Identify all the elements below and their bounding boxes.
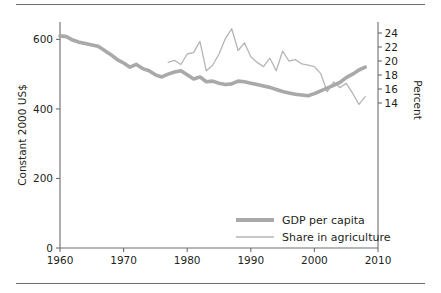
y2-tick-label: 22	[385, 41, 398, 53]
y2-tick-label: 24	[385, 27, 399, 39]
x-tick-label: 2000	[301, 254, 328, 266]
x-tick-label: 1960	[47, 254, 74, 266]
y2-tick-label: 18	[385, 69, 398, 81]
x-tick-label: 1980	[174, 254, 201, 266]
chart-canvas: 0200400600141618202224196019701980199020…	[0, 0, 441, 293]
y-axis-title: Constant 2000 US$	[16, 84, 28, 186]
y2-tick-label: 16	[385, 83, 399, 95]
x-tick-label: 2010	[365, 254, 392, 266]
x-tick-label: 1970	[110, 254, 137, 266]
series-group	[60, 29, 365, 105]
x-tick-label: 1990	[237, 254, 264, 266]
chart-legend: GDP per capitaShare in agriculture	[236, 214, 391, 244]
y-tick-label: 0	[46, 242, 53, 254]
y-tick-label: 200	[33, 172, 53, 184]
figure-container: 0200400600141618202224196019701980199020…	[0, 0, 441, 293]
legend-label-gdp-per-capita: GDP per capita	[282, 214, 365, 227]
y-tick-label: 600	[33, 33, 53, 45]
y2-tick-label: 20	[385, 55, 398, 67]
y-tick-label: 400	[33, 103, 53, 115]
legend-label-share-in-agriculture: Share in agriculture	[282, 231, 391, 244]
y2-axis-title: Percent	[412, 80, 424, 120]
series-line-share-in-agriculture	[168, 29, 365, 105]
y2-tick-label: 14	[385, 97, 399, 109]
